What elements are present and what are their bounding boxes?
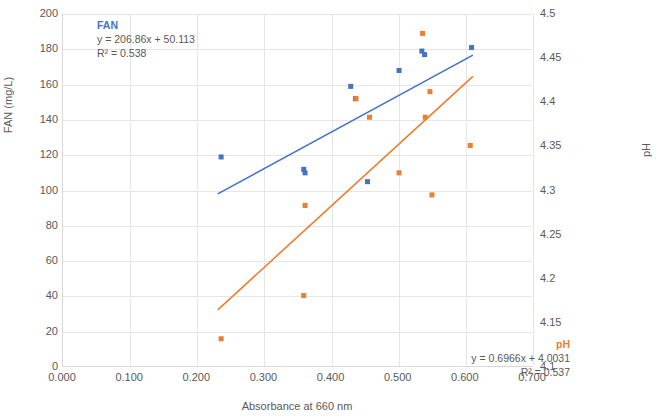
fan-r2: R² = 0.538: [97, 46, 195, 60]
x-axis-tick: 0.400: [301, 371, 361, 383]
x-axis-tick: 0.200: [166, 371, 226, 383]
x-axis-tick: 0.300: [233, 371, 293, 383]
gridline-horizontal: [63, 261, 532, 262]
y-axis-left-tick: 60: [12, 254, 58, 266]
x-axis-tick: 0.600: [435, 371, 495, 383]
gridline-horizontal: [63, 226, 532, 227]
gridline-vertical: [130, 14, 131, 366]
gridline-horizontal: [63, 85, 532, 86]
gridline-horizontal: [63, 14, 532, 15]
y-axis-left-tick: 40: [12, 289, 58, 301]
gridline-horizontal: [63, 155, 532, 156]
chart-container: FAN (mg/L) pH Absorbance at 660 nm FAN y…: [0, 0, 658, 419]
gridline-horizontal: [63, 120, 532, 121]
fan-series-label: FAN: [97, 18, 195, 32]
y-axis-right-tick: 4.35: [540, 139, 580, 151]
y-axis-right-tick: 4.5: [540, 7, 580, 19]
gridline-horizontal: [63, 296, 532, 297]
gridline-horizontal: [63, 332, 532, 333]
y-axis-left-tick: 120: [12, 148, 58, 160]
y-axis-left-tick: 160: [12, 78, 58, 90]
y-axis-left-tick: 20: [12, 325, 58, 337]
gridline-vertical: [466, 14, 467, 366]
x-axis-tick: 0.000: [32, 371, 92, 383]
gridline-horizontal: [63, 191, 532, 192]
y-axis-right-tick: 4.25: [540, 228, 580, 240]
ph-series-label: pH: [410, 337, 570, 351]
gridline-vertical: [197, 14, 198, 366]
x-axis-title: Absorbance at 660 nm: [62, 400, 532, 412]
fan-equation: y = 206.86x + 50.113: [97, 32, 195, 46]
gridline-vertical: [399, 14, 400, 366]
y-axis-left-tick: 200: [12, 7, 58, 19]
y-axis-left-tick: 100: [12, 184, 58, 196]
x-axis-tick: 0.100: [99, 371, 159, 383]
gridline-vertical: [533, 14, 534, 366]
y-axis-right-tick: 4.15: [540, 316, 580, 328]
y-axis-left-tick: 80: [12, 219, 58, 231]
gridline-vertical: [332, 14, 333, 366]
y-axis-left-tick: 140: [12, 113, 58, 125]
fan-trendline-annotation: FAN y = 206.86x + 50.113 R² = 0.538: [97, 18, 195, 60]
y-axis-right-tick: 4.4: [540, 95, 580, 107]
x-axis-tick: 0.700: [502, 371, 562, 383]
gridline-vertical: [264, 14, 265, 366]
plot-area: [62, 14, 532, 367]
y-axis-left-tick: 180: [12, 42, 58, 54]
y-axis-right-tick: 4.45: [540, 51, 580, 63]
x-axis-tick: 0.500: [368, 371, 428, 383]
y-axis-left-title: FAN (mg/L): [2, 45, 14, 165]
y-axis-right-tick: 4.2: [540, 272, 580, 284]
y-axis-right-title: pH: [640, 120, 652, 180]
y-axis-right-tick: 4.3: [540, 184, 580, 196]
